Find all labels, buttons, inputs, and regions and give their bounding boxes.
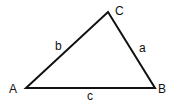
triangle-diagram: A B C a b c — [0, 0, 173, 100]
vertex-label-b: B — [158, 82, 166, 96]
side-label-c: c — [87, 89, 93, 100]
vertex-label-c: C — [115, 4, 124, 18]
triangle-abc — [26, 12, 155, 88]
vertex-label-a: A — [9, 82, 17, 96]
side-label-a: a — [139, 41, 146, 55]
side-label-b: b — [55, 39, 62, 53]
